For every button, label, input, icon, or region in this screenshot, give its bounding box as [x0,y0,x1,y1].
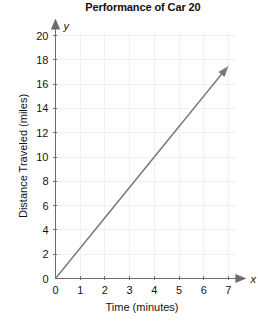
x-axis-letter: x [249,273,256,285]
y-axis-arrowhead [51,19,60,30]
y-tick-label: 8 [42,175,48,187]
y-tick-label: 18 [36,54,48,66]
x-tick-label: 6 [201,284,207,296]
y-tick-label: 20 [36,30,48,42]
y-axis-letter: y [63,20,71,32]
data-series [56,66,229,279]
x-tick-label: 1 [77,284,83,296]
y-tick-label: 2 [42,248,48,260]
y-tick-label: 14 [36,102,48,114]
y-tick-label: 4 [42,224,48,236]
y-tick-label: 12 [36,127,48,139]
axis-letters: yx [63,20,257,285]
chart-container: Performance of Car 20 Distance Traveled … [0,0,258,321]
y-tick-label: 16 [36,78,48,90]
gridlines [56,32,237,279]
x-tick-label: 4 [151,284,157,296]
y-tick-label: 6 [42,200,48,212]
y-tick-label: 0 [42,273,48,285]
x-tick-label: 3 [127,284,133,296]
x-tick-label: 5 [176,284,182,296]
chart-plot-area: 0123456702468101214161820 yx [0,0,258,321]
x-axis-arrowhead [235,274,246,283]
axis-ticks: 0123456702468101214161820 [36,30,231,296]
x-tick-label: 0 [52,284,58,296]
x-tick-label: 2 [102,284,108,296]
y-tick-label: 10 [36,151,48,163]
x-tick-label: 7 [225,284,231,296]
